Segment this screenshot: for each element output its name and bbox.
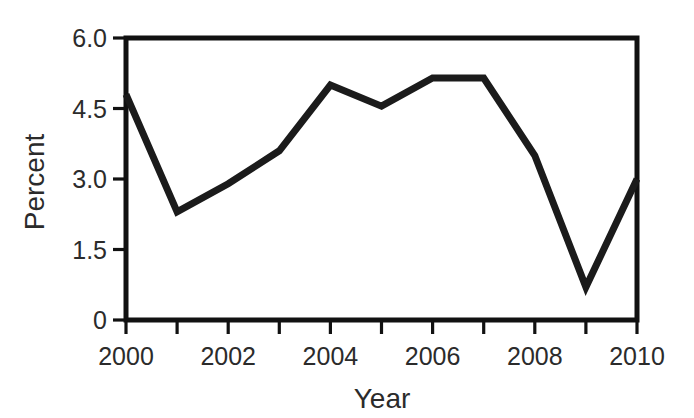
- y-tick-label: 4.5: [72, 95, 107, 123]
- y-tick-label: 3.0: [72, 165, 107, 193]
- plot-frame: [126, 38, 637, 320]
- y-axis-title: Percent: [19, 134, 50, 231]
- line-chart: 01.53.04.56.0 200020022004200620082010 Y…: [0, 0, 694, 418]
- series-line: [126, 78, 637, 287]
- x-tick-label: 2008: [507, 342, 563, 370]
- x-tick-label: 2010: [609, 342, 665, 370]
- x-tick-label: 2004: [303, 342, 359, 370]
- axis-frame: [126, 38, 637, 320]
- x-tick-label: 2000: [98, 342, 154, 370]
- y-axis-tick-labels: 01.53.04.56.0: [72, 24, 107, 334]
- y-tick-label: 1.5: [72, 236, 107, 264]
- x-axis-tick-labels: 200020022004200620082010: [98, 342, 665, 370]
- data-series-percent: [126, 78, 637, 287]
- x-tick-label: 2006: [405, 342, 461, 370]
- y-tick-label: 6.0: [72, 24, 107, 52]
- x-axis-title: Year: [354, 383, 411, 414]
- x-tick-label: 2002: [200, 342, 256, 370]
- chart-canvas: 01.53.04.56.0 200020022004200620082010 Y…: [0, 0, 694, 418]
- y-tick-label: 0: [93, 306, 107, 334]
